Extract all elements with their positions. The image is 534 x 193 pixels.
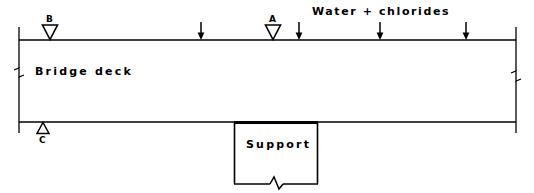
bridge-deck-outline [19, 27, 516, 133]
chloride-arrow-1 [198, 22, 205, 40]
bridge-deck-label: Bridge deck [35, 66, 133, 77]
marker-a-triangle [266, 25, 281, 40]
chloride-arrow-2 [296, 22, 303, 40]
marker-b-label: B [46, 15, 53, 24]
marker-a-label: A [269, 15, 276, 24]
marker-b-triangle [43, 25, 58, 40]
support-label: Support [246, 139, 311, 150]
break-mark-left [14, 68, 24, 77]
marker-c-label: C [39, 136, 46, 145]
diagram-canvas [0, 0, 534, 193]
chloride-arrow-3 [377, 22, 384, 40]
bridge-deck-diagram: Water + chlorides Bridge deck Support B … [0, 0, 534, 193]
chloride-arrow-4 [463, 22, 470, 40]
support-block-outline [234, 122, 318, 189]
marker-c-triangle [37, 123, 49, 134]
break-mark-support-bottom [270, 177, 283, 189]
chloride-ingress-arrows [198, 22, 470, 40]
location-markers [37, 25, 281, 134]
water-chlorides-label: Water + chlorides [312, 6, 450, 17]
break-mark-right [511, 71, 521, 81]
